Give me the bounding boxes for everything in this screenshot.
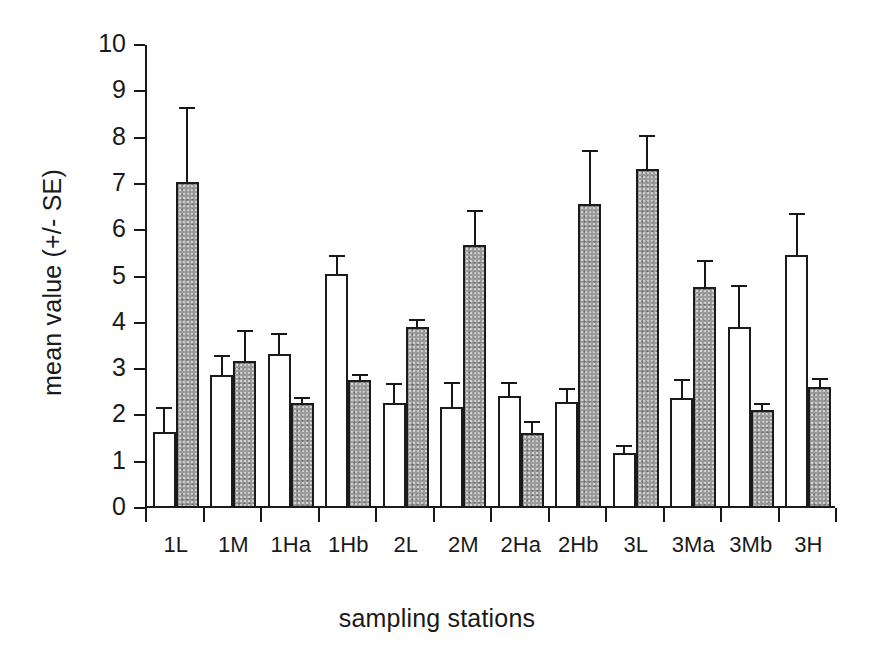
error-bar-cap-3H-filled: [812, 378, 828, 380]
y-tick-label: 3: [112, 353, 126, 381]
error-bar-cap-3Ma-filled: [697, 260, 713, 262]
error-bar-cap-3H-open: [789, 213, 805, 215]
y-tick-label: 2: [112, 399, 126, 427]
y-tick-mark: [134, 414, 145, 416]
error-bar-cap-1Ha-open: [271, 333, 287, 335]
y-tick-mark: [134, 368, 145, 370]
bar-1Hb-filled: [348, 380, 371, 508]
x-tick-mark: [720, 508, 722, 522]
error-bar-cap-2M-filled: [467, 210, 483, 212]
error-bar-stem-1L-open: [163, 408, 165, 431]
bar-2L-open: [383, 403, 406, 508]
error-bar-cap-2L-filled: [409, 319, 425, 321]
error-bar-stem-2L-filled: [416, 320, 418, 327]
error-bar-stem-3L-filled: [646, 136, 648, 168]
error-bar-stem-1M-filled: [244, 331, 246, 361]
y-tick-mark: [134, 44, 145, 46]
x-tick-mark: [203, 508, 205, 522]
x-tick-label-1M: 1M: [218, 532, 249, 558]
x-axis-title: sampling stations: [0, 604, 874, 633]
bar-3Ma-filled: [693, 287, 716, 508]
error-bar-cap-1Ha-filled: [294, 397, 310, 399]
y-tick-mark: [134, 90, 145, 92]
plot-area: 012345678910: [145, 45, 835, 508]
x-tick-label-2L: 2L: [394, 532, 418, 558]
error-bar-stem-3H-filled: [819, 379, 821, 387]
error-bar-stem-2M-filled: [474, 211, 476, 246]
x-tick-mark: [778, 508, 780, 522]
x-tick-mark: [145, 508, 147, 522]
y-tick-mark: [134, 229, 145, 231]
y-axis-title: mean value (+/- SE): [38, 113, 67, 453]
error-bar-cap-2Hb-filled: [582, 150, 598, 152]
error-bar-cap-2L-open: [386, 383, 402, 385]
bar-1M-open: [210, 375, 233, 508]
y-tick-label: 4: [112, 307, 126, 335]
y-tick-mark: [134, 507, 145, 509]
error-bar-stem-2Ha-filled: [531, 422, 533, 432]
error-bar-stem-3Mb-open: [738, 286, 740, 326]
x-tick-mark: [433, 508, 435, 522]
x-tick-label-2M: 2M: [448, 532, 479, 558]
y-tick-label: 1: [112, 446, 126, 474]
bar-1L-open: [153, 432, 176, 508]
y-tick-label: 10: [98, 29, 126, 57]
x-tick-mark: [318, 508, 320, 522]
chart-figure: mean value (+/- SE) 012345678910 1L1M1Ha…: [0, 0, 874, 664]
error-bar-cap-3Mb-filled: [754, 403, 770, 405]
x-tick-label-3H: 3H: [794, 532, 822, 558]
bar-2L-filled: [406, 327, 429, 508]
y-tick-label: 8: [112, 122, 126, 150]
bar-1M-filled: [233, 361, 256, 508]
error-bar-stem-2Hb-filled: [589, 151, 591, 204]
y-tick-label: 7: [112, 168, 126, 196]
bar-3L-open: [613, 453, 636, 508]
x-tick-label-3Mb: 3Mb: [729, 532, 772, 558]
bar-2M-filled: [463, 245, 486, 508]
y-tick-mark: [134, 276, 145, 278]
bar-2Ha-open: [498, 396, 521, 508]
bar-1Ha-filled: [291, 403, 314, 508]
error-bar-stem-2M-open: [451, 383, 453, 408]
y-tick-mark: [134, 137, 145, 139]
error-bar-cap-1M-filled: [237, 330, 253, 332]
x-tick-mark: [835, 508, 837, 522]
y-tick-mark: [134, 322, 145, 324]
x-tick-mark: [663, 508, 665, 522]
error-bar-cap-1M-open: [214, 355, 230, 357]
y-tick-label: 9: [112, 75, 126, 103]
x-tick-mark: [548, 508, 550, 522]
error-bar-stem-2L-open: [393, 384, 395, 403]
error-bar-cap-1Hb-open: [329, 255, 345, 257]
bar-2Hb-open: [555, 402, 578, 508]
bar-1Ha-open: [268, 354, 291, 508]
bar-3H-open: [785, 255, 808, 508]
error-bar-cap-1L-open: [156, 407, 172, 409]
x-tick-mark: [490, 508, 492, 522]
bar-2Hb-filled: [578, 204, 601, 508]
x-tick-label-1Ha: 1Ha: [271, 532, 311, 558]
y-tick-mark: [134, 183, 145, 185]
error-bar-stem-1Hb-open: [336, 256, 338, 275]
error-bar-stem-3L-open: [623, 446, 625, 453]
error-bar-stem-2Ha-open: [508, 383, 510, 396]
error-bar-cap-2Hb-open: [559, 388, 575, 390]
x-tick-mark: [605, 508, 607, 522]
bar-1Hb-open: [325, 274, 348, 508]
bar-1L-filled: [176, 182, 199, 508]
x-tick-label-3L: 3L: [624, 532, 648, 558]
bar-3Ma-open: [670, 398, 693, 508]
x-tick-label-1Hb: 1Hb: [328, 532, 368, 558]
error-bar-cap-1Hb-filled: [352, 374, 368, 376]
error-bar-cap-3L-open: [616, 445, 632, 447]
error-bar-cap-3Ma-open: [674, 379, 690, 381]
error-bar-stem-2Hb-open: [566, 389, 568, 402]
y-tick-label: 6: [112, 214, 126, 242]
x-tick-label-2Hb: 2Hb: [558, 532, 598, 558]
bar-2Ha-filled: [521, 433, 544, 508]
bar-3Mb-open: [728, 327, 751, 508]
y-tick-label: 0: [112, 492, 126, 520]
y-tick-mark: [134, 461, 145, 463]
error-bar-stem-1M-open: [221, 356, 223, 375]
x-tick-label-1L: 1L: [164, 532, 188, 558]
